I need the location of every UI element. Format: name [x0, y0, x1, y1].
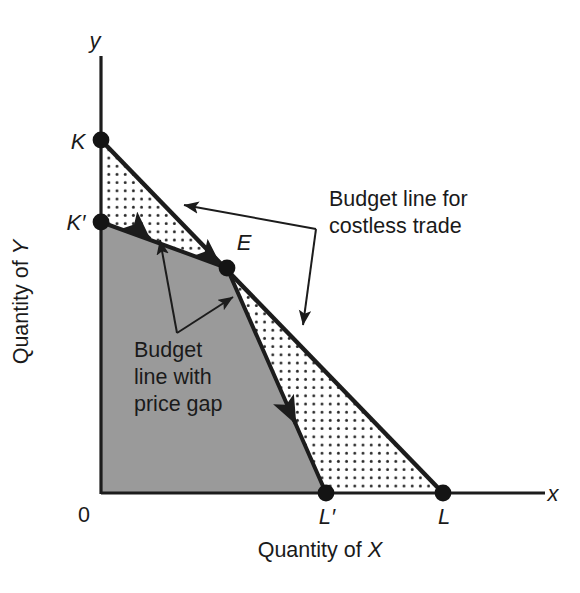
- budget-line-figure: y x 0 K K′ E L′ L Quantity of X Quantity…: [0, 0, 580, 593]
- annotation-costless-trade-line1: Budget line for: [329, 187, 468, 211]
- point-l-dot: [435, 485, 452, 502]
- point-e-dot: [219, 260, 236, 277]
- point-label-l-prime: L′: [319, 504, 336, 529]
- y-axis-title-variable: Y: [8, 238, 33, 254]
- annotation-costless-trade-line2: costless trade: [329, 214, 462, 238]
- x-axis-title-variable: X: [367, 537, 384, 562]
- annotation-price-gap-line3: price gap: [134, 392, 222, 416]
- y-axis-label: y: [88, 28, 103, 53]
- annotation-price-gap-line1: Budget: [134, 338, 202, 362]
- annotation-price-gap-line2: line with: [134, 365, 212, 389]
- y-axis-title: Quantity of Y: [8, 238, 33, 364]
- point-k-dot: [93, 132, 110, 149]
- point-label-e: E: [237, 230, 252, 255]
- x-axis-title: Quantity of X: [258, 537, 384, 562]
- origin-label: 0: [78, 503, 90, 527]
- x-axis-title-prefix: Quantity of: [258, 538, 368, 562]
- x-axis-label: x: [547, 481, 560, 506]
- y-axis-title-group: Quantity of Y: [8, 238, 33, 364]
- diagram-canvas: y x 0 K K′ E L′ L Quantity of X Quantity…: [0, 0, 580, 593]
- y-axis-title-prefix: Quantity of: [9, 254, 33, 364]
- point-label-k-prime: K′: [67, 210, 87, 235]
- point-k-prime-dot: [93, 214, 110, 231]
- point-label-l: L: [438, 504, 450, 529]
- point-l-prime-dot: [318, 485, 335, 502]
- point-label-k: K: [71, 129, 87, 154]
